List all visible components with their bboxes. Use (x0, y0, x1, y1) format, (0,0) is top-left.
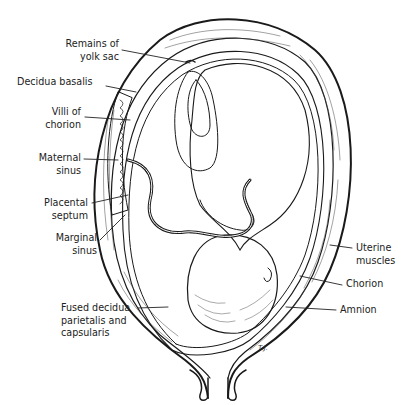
label-line: chorion (45, 119, 81, 132)
label-line: muscles (356, 255, 395, 268)
label-uterine-muscles: Uterine muscles (356, 242, 395, 267)
label-line: Marginal (56, 232, 97, 245)
fetus-body (190, 63, 309, 250)
label-villi-of-chorion: Villi of chorion (45, 106, 81, 131)
label-line: septum (44, 210, 88, 223)
chorion-line (123, 51, 324, 355)
label-line: parietalis and (61, 315, 130, 328)
artist-signature: T.J. (258, 344, 268, 352)
label-amnion: Amnion (340, 304, 377, 317)
yolk-sac-remnant (186, 61, 195, 63)
label-remains-of-yolk-sac: Remains of yolk sac (66, 38, 119, 63)
label-line: Placental (44, 197, 88, 210)
label-line: Amnion (340, 304, 377, 317)
amnion-line (129, 59, 318, 348)
hair-hatching (195, 290, 273, 322)
label-line: sinus (39, 165, 81, 178)
label-line: yolk sac (66, 51, 119, 64)
label-chorion: Chorion (346, 278, 383, 291)
label-line: Uterine (356, 242, 395, 255)
umbilical-cord (128, 160, 252, 236)
muscle-hatching (104, 30, 341, 350)
label-placental-septum: Placental septum (44, 197, 88, 222)
label-fused-decidua: Fused decidua parietalis and capsularis (61, 302, 130, 340)
fetus-ear (264, 268, 272, 282)
label-maternal-sinus: Maternal sinus (39, 152, 81, 177)
label-marginal-sinus: Marginal sinus (56, 232, 97, 257)
label-line: capsularis (61, 327, 130, 340)
label-line: Chorion (346, 278, 383, 291)
label-line: Villi of (45, 106, 81, 119)
label-line: Fused decidua (61, 302, 130, 315)
label-decidua-basalis: Decidua basalis (17, 76, 93, 89)
label-line: Decidua basalis (17, 76, 93, 89)
label-line: Remains of (66, 38, 119, 51)
uterine-wall-outer (95, 19, 351, 398)
cervical-canal (190, 370, 246, 400)
label-line: Maternal (39, 152, 81, 165)
label-line: sinus (56, 245, 97, 258)
fetus-foot (188, 80, 210, 136)
